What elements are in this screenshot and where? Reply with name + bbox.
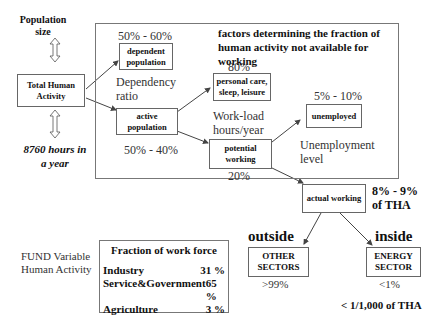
total-human-activity-node: Total Human Activity — [17, 74, 85, 107]
other-sectors-node: OTHER SECTORS — [248, 247, 309, 277]
sector-name: Industry — [103, 264, 144, 277]
personal-care-node: personal care, sleep, leisure — [213, 73, 271, 101]
personal-care-pct: 80% — [228, 60, 250, 74]
sector-value: 31 % — [200, 264, 225, 277]
active-population-node: active population — [116, 108, 178, 135]
potential-pct: 20% — [228, 169, 250, 183]
energy-tha-label: < 1/1,000 of THA — [341, 298, 422, 312]
workforce-table: Fraction of work force Industry 31 % Ser… — [99, 240, 229, 313]
unemployment-level-label: Unemployment level — [300, 138, 380, 166]
workforce-row: Agriculture 3 % — [103, 303, 225, 316]
sector-value: 3 % — [206, 303, 225, 316]
population-size-label: Population size — [18, 14, 68, 38]
sector-value: 65 % — [206, 277, 225, 303]
sector-name: Agriculture — [103, 303, 158, 316]
other-pct: >99% — [262, 277, 288, 291]
potential-working-node: potential working — [209, 139, 272, 169]
workload-label: Work-load hours/year — [213, 109, 283, 137]
hours-per-year-label: 8760 hours in a year — [20, 142, 90, 170]
dependent-pct: 50% - 60% — [118, 29, 172, 43]
sector-name: Service&Government — [103, 277, 206, 303]
unemployed-node: unemployed — [306, 104, 362, 128]
active-pct: 50% - 40% — [124, 143, 178, 157]
dependent-population-node: dependent population — [119, 43, 173, 70]
fund-variable-label: FUND Variable Human Activity — [21, 250, 96, 276]
workforce-row: Service&Government 65 % — [103, 277, 225, 303]
workforce-row: Industry 31 % — [103, 264, 225, 277]
actual-pct-label: 8% - 9% of THA — [372, 184, 422, 212]
actual-working-node: actual working — [302, 184, 366, 213]
unemployed-pct: 5% - 10% — [314, 89, 362, 103]
workforce-table-title: Fraction of work force — [103, 244, 225, 257]
dependency-ratio-label: Dependency ratio — [116, 75, 176, 103]
inside-label: inside — [375, 228, 413, 244]
energy-pct: <1% — [379, 277, 400, 291]
energy-sector-node: ENERGY SECTOR — [366, 247, 421, 277]
outside-label: outside — [248, 228, 294, 244]
